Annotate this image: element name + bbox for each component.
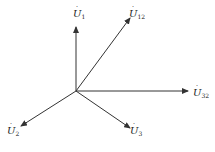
phasor-diagram — [0, 0, 215, 152]
vector-u12 — [76, 18, 130, 91]
label-u1: ˙U1 — [73, 9, 85, 22]
vector-u2 — [21, 91, 76, 126]
label-u12: ˙U12 — [129, 9, 145, 22]
label-u32: ˙U32 — [193, 88, 209, 101]
vector-u3 — [76, 91, 130, 128]
label-u2: ˙U2 — [7, 126, 19, 139]
label-u3: ˙U3 — [130, 126, 142, 139]
